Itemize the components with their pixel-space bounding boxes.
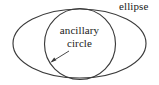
ancillary-circle-label-line1: ancillary	[0, 24, 159, 37]
ancillary-circle-label: ancillary circle	[0, 24, 159, 49]
arrow-head-icon	[50, 58, 56, 63]
ancillary-circle-diagram: ellipse ancillary circle	[0, 0, 159, 85]
ellipse-label: ellipse	[119, 1, 148, 12]
ancillary-circle-label-line2: circle	[0, 37, 159, 50]
